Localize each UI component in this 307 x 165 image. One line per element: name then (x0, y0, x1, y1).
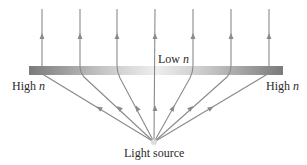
arrow-up-2 (78, 33, 83, 39)
ray-3 (117, 9, 154, 142)
low-n-label: Low n (158, 53, 189, 65)
high-text: High (12, 79, 36, 93)
arrow-up-7 (267, 33, 272, 39)
arrow-up-3 (115, 33, 120, 39)
graded-index-slab (29, 66, 283, 75)
arrow-lower-4 (153, 105, 158, 111)
n-symbol: n (293, 79, 299, 93)
arrow-up-6 (229, 33, 234, 39)
arrow-up-1 (40, 33, 45, 39)
high-n-label-left: High n (12, 80, 45, 92)
low-text: Low (158, 52, 180, 66)
light-source-point (151, 139, 157, 145)
n-symbol: n (183, 52, 189, 66)
ray-1 (42, 9, 154, 142)
light-rays (42, 9, 269, 142)
ray-7 (154, 9, 269, 142)
arrow-lower-5 (169, 104, 176, 112)
arrow-lower-2 (115, 104, 123, 112)
arrow-up-5 (191, 33, 196, 39)
arrow-lower-6 (187, 104, 195, 112)
source-text: Light source (124, 146, 184, 160)
n-symbol: n (39, 79, 45, 93)
arrow-lower-7 (207, 104, 215, 111)
arrow-up-4 (153, 33, 158, 39)
high-text: High (266, 79, 290, 93)
ray-4 (154, 9, 155, 142)
high-n-label-right: High n (266, 80, 299, 92)
light-source-label: Light source (124, 147, 184, 159)
graded-index-diagram (0, 0, 307, 165)
